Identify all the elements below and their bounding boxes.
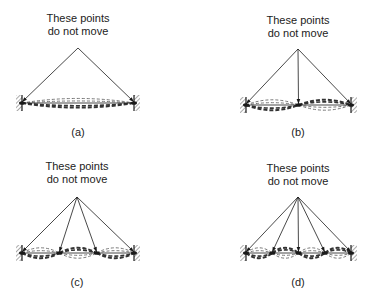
pointer-line (22, 197, 77, 252)
panel-b: These pointsdo not move(b) (240, 14, 357, 138)
wave-loop (59, 248, 96, 258)
caption-line-1: These points (46, 160, 109, 172)
pointer-line (77, 197, 97, 252)
wave-loop (299, 100, 352, 110)
caption-line-2: do not move (48, 25, 109, 37)
pointer-line (272, 197, 298, 252)
caption-line-1: These points (47, 12, 110, 24)
caption-line-2: do not move (47, 173, 108, 185)
pointer-line (298, 49, 351, 104)
wave-loop (272, 248, 298, 258)
pointer-line (298, 197, 351, 252)
pointer-line (59, 197, 77, 252)
wave-loop (299, 248, 325, 258)
panel-label: (a) (71, 126, 84, 138)
panel-d: These pointsdo not move(d) (240, 162, 357, 288)
panel-c: These pointsdo not move(c) (16, 160, 140, 288)
pointer-line (298, 197, 325, 252)
panel-label: (d) (291, 276, 304, 288)
wave-loop (22, 248, 59, 258)
pointer-line (246, 197, 298, 252)
pointer-line (77, 197, 134, 252)
arrowhead-icon (297, 99, 301, 104)
panel-label: (c) (71, 276, 84, 288)
wave-loop (22, 98, 134, 107)
wave-loop (246, 100, 299, 110)
pointer-line (22, 48, 78, 102)
caption-line-2: do not move (268, 175, 329, 187)
pointer-line (78, 48, 134, 102)
panel-a: These pointsdo not move(a) (16, 12, 140, 138)
pointer-line (298, 197, 299, 252)
panel-label: (b) (291, 126, 304, 138)
pointer-line (246, 49, 298, 104)
caption-line-2: do not move (268, 27, 329, 39)
caption-line-1: These points (267, 162, 330, 174)
caption-line-1: These points (267, 14, 330, 26)
pointer-line (298, 49, 299, 104)
standing-wave-diagram: These pointsdo not move(a)These pointsdo… (0, 0, 377, 298)
wave-loop (97, 248, 134, 258)
